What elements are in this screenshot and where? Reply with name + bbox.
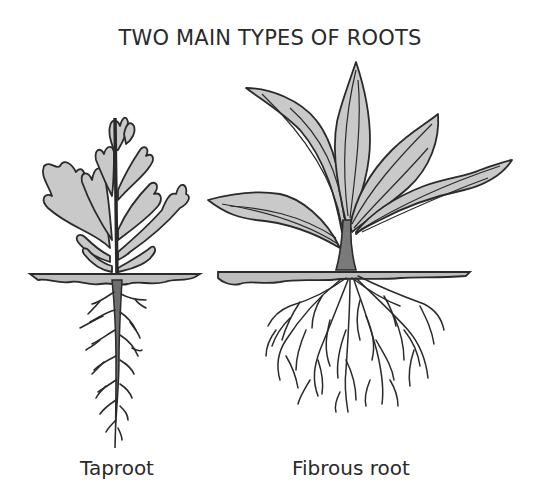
fibrous-roots — [266, 276, 444, 412]
taproot-label: Taproot — [80, 456, 154, 480]
taproot-stem — [115, 118, 117, 275]
fibrous-plant — [208, 62, 512, 412]
fibrous-root-label: Fibrous root — [292, 456, 410, 480]
diagram-canvas — [0, 0, 540, 492]
taproot-lateral-roots — [80, 292, 146, 440]
fibrous-leaves — [208, 62, 512, 248]
fibrous-ground — [218, 272, 470, 285]
taproot-plant — [30, 118, 200, 448]
